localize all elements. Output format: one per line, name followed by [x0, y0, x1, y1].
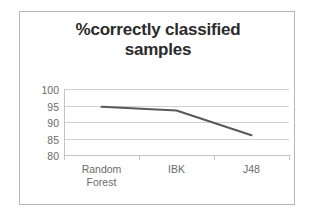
x-axis-labels: Random Forest IBK J48	[64, 163, 289, 203]
x-axis-tick-0	[64, 155, 65, 160]
x-axis-tick-1	[139, 155, 140, 160]
y-axis-tick-label-85: 85	[47, 134, 59, 146]
y-axis-tick-label-100: 100	[41, 84, 59, 96]
y-axis-tick-label-95: 95	[47, 101, 59, 113]
chart-title: %correctly classified samples	[34, 20, 282, 60]
chart-title-line-2: samples	[34, 40, 282, 60]
x-axis-category-ibk: IBK	[168, 163, 185, 176]
x-axis-category-random-forest: Random Forest	[82, 163, 122, 189]
x-axis-category-label-line-1: J48	[243, 163, 260, 175]
x-axis-tick-3	[289, 155, 290, 160]
series-line-path	[102, 107, 252, 135]
series-line-chart	[64, 89, 289, 155]
x-axis-category-label-line-1: IBK	[168, 163, 185, 175]
y-axis-tick-label-80: 80	[47, 150, 59, 162]
x-axis-category-label-line-1: Random	[82, 163, 122, 175]
chart-title-line-1: %correctly classified	[76, 20, 241, 39]
x-axis-category-label-line-2: Forest	[82, 176, 122, 189]
chart-container: %correctly classified samples 100 95 90 …	[19, 11, 295, 205]
x-axis-category-j48: J48	[243, 163, 260, 176]
x-axis-tick-2	[214, 155, 215, 160]
x-axis-line	[64, 155, 289, 156]
y-axis-tick-label-90: 90	[47, 117, 59, 129]
